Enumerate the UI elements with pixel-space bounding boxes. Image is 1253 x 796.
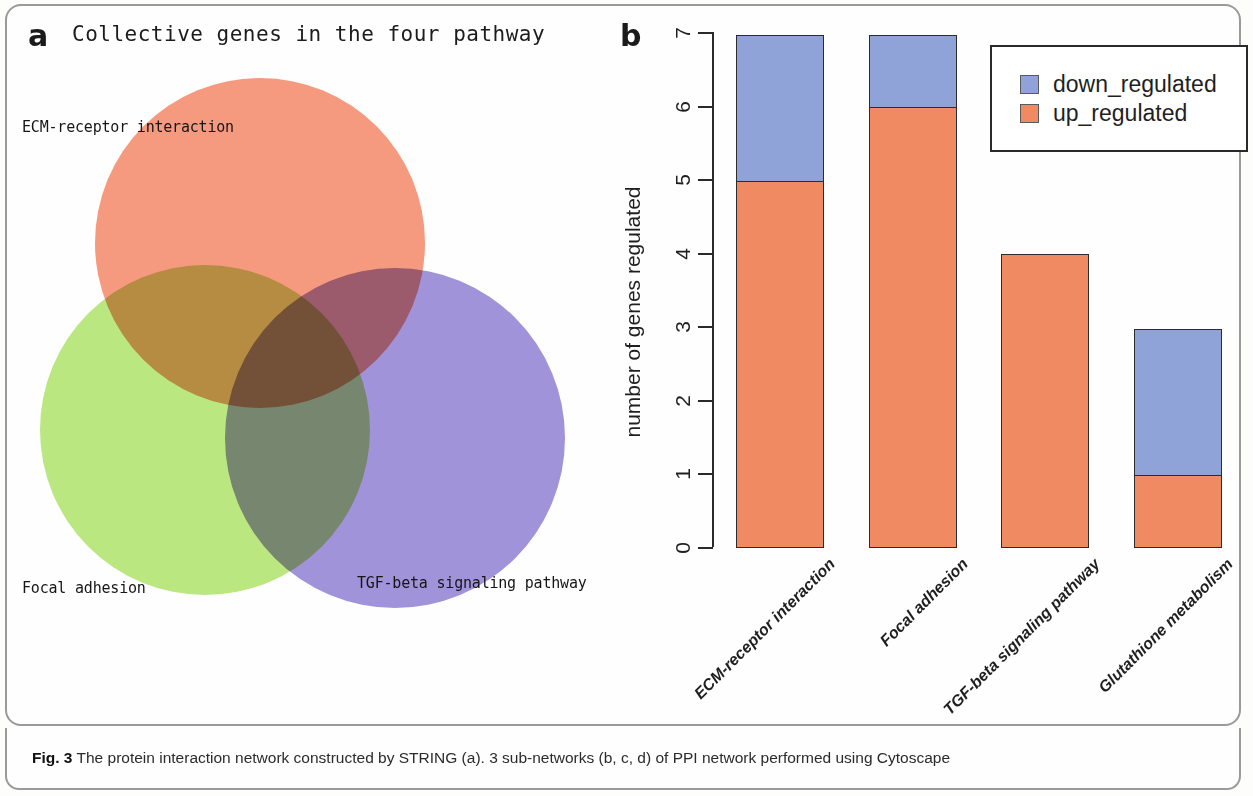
venn-label-tgf-beta-signaling-pathway: TGF-beta signaling pathway: [357, 574, 587, 592]
x-axis-labels: ECM-receptor interactionFocal adhesionTG…: [714, 549, 1244, 724]
venn-label-ecm-receptor-interaction: ECM-receptor interaction: [22, 118, 234, 136]
bar-segment-up-regulated: [1001, 254, 1089, 548]
y-axis-tick-label: 7: [673, 27, 694, 39]
caption-figure-number: Fig. 3: [32, 749, 72, 766]
venn-label-focal-adhesion: Focal adhesion: [22, 579, 146, 597]
y-axis-title: number of genes regulated: [621, 162, 645, 462]
venn-diagram: ECM-receptor interaction Focal adhesion …: [0, 0, 620, 720]
bar-2: [869, 35, 957, 547]
chart-legend: down_regulated up_regulated: [990, 45, 1248, 152]
bar-3: [1001, 254, 1089, 547]
bar-segment-up-regulated: [736, 181, 824, 549]
bar-segment-down-regulated: [736, 35, 824, 182]
y-axis-tick: 1: [698, 473, 713, 475]
x-axis-label: Focal adhesion: [876, 555, 971, 650]
bar-4: [1134, 329, 1222, 547]
venn-circle-tgf-beta-signaling-pathway: [225, 268, 565, 608]
y-axis-tick-label: 5: [673, 174, 694, 186]
y-axis-tick-label: 4: [673, 248, 694, 260]
legend-item-up-regulated: up_regulated: [1020, 100, 1246, 127]
y-axis-tick-label: 2: [673, 395, 694, 407]
y-axis-tick: 2: [698, 400, 713, 402]
legend-swatch-up-regulated: [1020, 104, 1039, 123]
bar-segment-up-regulated: [1134, 475, 1222, 549]
x-axis-label: Glutathione metabolism: [1095, 555, 1237, 697]
bar-segment-down-regulated: [1134, 329, 1222, 476]
figure-root: a Collective genes in the four pathway E…: [0, 0, 1253, 796]
x-axis-label: TGF-beta signaling pathway: [940, 555, 1104, 719]
y-axis-tick-label: 0: [673, 542, 694, 554]
y-axis-tick: 3: [698, 326, 713, 328]
bar-segment-up-regulated: [869, 107, 957, 548]
y-axis-tick-label: 3: [673, 321, 694, 333]
figure-caption: Fig. 3 The protein interaction network c…: [32, 748, 1212, 769]
y-axis-tick: 5: [698, 179, 713, 181]
bar-segment-down-regulated: [869, 35, 957, 109]
legend-label-down-regulated: down_regulated: [1053, 71, 1217, 98]
x-axis-label: ECM-receptor interaction: [691, 555, 839, 703]
y-axis-tick: 4: [698, 253, 713, 255]
legend-label-up-regulated: up_regulated: [1053, 100, 1187, 127]
caption-body: The protein interaction network construc…: [72, 749, 950, 766]
bar-chart: number of genes regulated 01234567 ECM-r…: [600, 0, 1253, 730]
y-axis-tick: 0: [698, 547, 713, 549]
bar-1: [736, 35, 824, 547]
y-axis-tick-label: 6: [673, 101, 694, 113]
y-axis-tick: 6: [698, 106, 713, 108]
y-axis-tick: 7: [698, 32, 713, 34]
legend-swatch-down-regulated: [1020, 75, 1039, 94]
legend-item-down-regulated: down_regulated: [1020, 71, 1246, 98]
y-axis-tick-label: 1: [673, 469, 694, 481]
